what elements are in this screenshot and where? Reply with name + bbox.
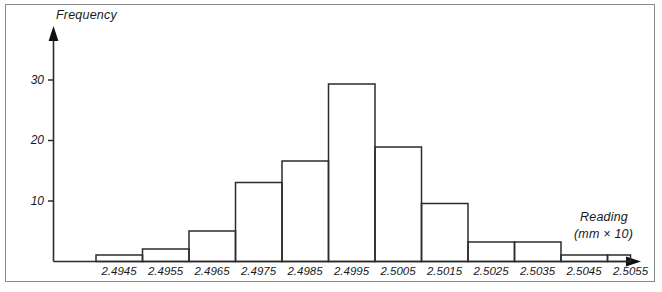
bar-2.5035 bbox=[515, 242, 562, 262]
bar-2.5015 bbox=[422, 204, 469, 262]
bar-2.5025 bbox=[468, 242, 515, 262]
bar-2.4965 bbox=[189, 231, 236, 262]
y-axis-title: Frequency bbox=[56, 8, 117, 22]
bar-2.5045 bbox=[561, 255, 608, 262]
bar-2.5005 bbox=[375, 147, 422, 262]
screenshot-root: Frequency Reading (mm × 10) 10 20 30 2.4… bbox=[0, 0, 662, 292]
figure-caption bbox=[6, 284, 646, 292]
y-axis bbox=[49, 26, 59, 262]
bar-2.4985 bbox=[282, 161, 329, 262]
y-tick-label-20: 20 bbox=[18, 133, 44, 147]
y-tick-label-10: 10 bbox=[18, 194, 44, 208]
x-axis-title: Reading bbox=[580, 210, 628, 224]
bar-2.4955 bbox=[143, 249, 190, 262]
bar-2.4975 bbox=[236, 183, 283, 262]
y-tick-marks bbox=[48, 80, 54, 201]
histogram-bars bbox=[96, 84, 631, 262]
x-axis-units: (mm × 10) bbox=[574, 227, 633, 241]
x-tick-label-11: 2.5055 bbox=[599, 265, 662, 277]
bar-2.4995 bbox=[329, 84, 376, 262]
bar-2.4945 bbox=[96, 255, 143, 262]
histogram-chart bbox=[0, 0, 662, 292]
y-tick-label-30: 30 bbox=[18, 73, 44, 87]
